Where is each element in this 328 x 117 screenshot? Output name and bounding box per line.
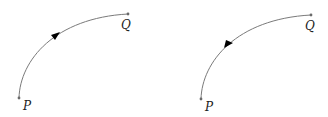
left-point-p bbox=[18, 97, 21, 100]
right-arc bbox=[201, 15, 311, 99]
left-diagram: P Q bbox=[18, 13, 131, 113]
right-point-q bbox=[310, 14, 313, 17]
left-arc bbox=[19, 14, 128, 98]
right-label-q: Q bbox=[305, 19, 315, 33]
right-point-p bbox=[200, 98, 203, 101]
right-label-p: P bbox=[204, 100, 214, 114]
diagram-canvas: P Q P Q bbox=[0, 0, 328, 117]
left-label-q: Q bbox=[121, 18, 131, 32]
left-point-q bbox=[127, 13, 130, 16]
left-label-p: P bbox=[22, 99, 32, 113]
right-diagram: P Q bbox=[200, 14, 315, 114]
